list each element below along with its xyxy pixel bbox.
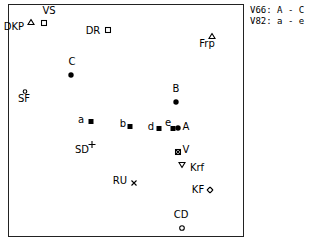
point-label: KF: [192, 185, 204, 195]
point-label: VS: [42, 6, 55, 16]
point-label: a: [78, 115, 84, 125]
marker-square-open-icon: [105, 19, 112, 38]
legend-v82: V82: a - e: [250, 16, 304, 26]
point-label: d: [148, 122, 154, 132]
point-label: SD: [75, 145, 89, 155]
marker-square-filled-icon: [88, 110, 94, 129]
point-label: Krf: [190, 163, 204, 173]
marker-diamond-open-icon: [207, 179, 214, 198]
point-label: A: [183, 122, 190, 132]
point-label: DKP: [4, 22, 24, 32]
marker-triangle-down-open-icon: [178, 154, 186, 173]
legend-v66: V66: A - C: [250, 5, 304, 15]
marker-plus-icon: [88, 134, 96, 153]
point-label: DR: [86, 26, 101, 36]
marker-triangle-open-icon: [27, 11, 35, 30]
marker-square-filled-icon: [127, 115, 133, 134]
point-label: SF: [18, 94, 30, 104]
point-label: b: [120, 119, 126, 129]
marker-x-icon: [131, 172, 138, 191]
point-label: e: [165, 118, 171, 128]
marker-square-filled-icon: [156, 117, 162, 136]
point-label: CD: [174, 210, 189, 220]
point-label: RU: [113, 176, 127, 186]
point-label: B: [173, 84, 180, 94]
marker-dot-icon: [175, 117, 182, 136]
point-label: C: [69, 57, 76, 67]
point-label: Frp: [199, 39, 214, 49]
